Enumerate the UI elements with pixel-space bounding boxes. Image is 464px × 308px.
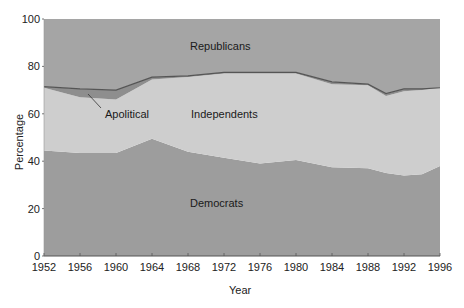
y-tick-label: 0 (34, 250, 40, 262)
plot-areas (44, 19, 440, 256)
x-tick-label: 1996 (428, 261, 452, 273)
x-tick-label: 1952 (32, 261, 56, 273)
x-tick-label: 1968 (176, 261, 200, 273)
x-tick-label: 1964 (140, 261, 164, 273)
stacked-area-chart: 1952195619601964196819721976198019841988… (0, 0, 464, 308)
x-tick-label: 1980 (284, 261, 308, 273)
label-democrats: Democrats (190, 197, 244, 209)
label-republicans: Republicans (190, 40, 251, 52)
x-tick-label: 1988 (356, 261, 380, 273)
y-tick-label: 20 (28, 203, 40, 215)
x-tick-label: 1972 (212, 261, 236, 273)
y-axis-title: Percentage (13, 114, 25, 170)
y-tick-label: 80 (28, 60, 40, 72)
x-axis-title: Year (229, 284, 252, 296)
x-tick-label: 1960 (104, 261, 128, 273)
y-tick-label: 40 (28, 155, 40, 167)
y-tick-label: 100 (22, 13, 40, 25)
label-independents: Independents (191, 108, 258, 120)
x-tick-label: 1992 (392, 261, 416, 273)
x-tick-label: 1976 (248, 261, 272, 273)
x-tick-label: 1956 (68, 261, 92, 273)
y-tick-label: 60 (28, 108, 40, 120)
x-tick-label: 1984 (320, 261, 344, 273)
label-apolitical: Apolitical (105, 108, 149, 120)
